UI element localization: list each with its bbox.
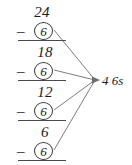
start-value: 24 <box>14 2 70 22</box>
result-row-4: 0 <box>14 161 70 165</box>
circled-subtrahend-2: 6 <box>34 62 53 80</box>
circled-subtrahend-1: 6 <box>34 22 53 40</box>
start-value-row: 24 <box>14 2 70 22</box>
minus-sign-3: – <box>17 101 25 121</box>
arrowhead-icon <box>92 77 100 84</box>
subtraction-rule-2 <box>18 80 66 81</box>
minus-sign-2: – <box>17 61 25 81</box>
result-value-4: 0 <box>14 161 70 165</box>
repeated-subtraction-diagram: 24 – 6 18 – 6 12 – 6 6 – <box>0 0 132 165</box>
subtraction-row-4: – 6 <box>14 141 70 161</box>
subtraction-row-3: – 6 <box>14 101 70 121</box>
subtraction-column: 24 – 6 18 – 6 12 – 6 6 – <box>14 0 70 165</box>
result-row-1: 18 <box>14 42 70 62</box>
count-annotation: 4 6s <box>102 72 123 90</box>
minus-sign-1: – <box>17 21 25 41</box>
subtraction-row-2: – 6 <box>14 61 70 81</box>
subtraction-rule-1 <box>18 40 66 41</box>
result-value-1: 18 <box>14 42 70 62</box>
result-row-2: 12 <box>14 82 70 102</box>
minus-sign-4: – <box>17 141 25 161</box>
circled-subtrahend-4: 6 <box>34 142 53 160</box>
subtraction-rule-3 <box>18 120 66 121</box>
result-value-2: 12 <box>14 82 70 102</box>
subtraction-row-1: – 6 <box>14 21 70 41</box>
circled-subtrahend-3: 6 <box>34 102 53 120</box>
result-value-3: 6 <box>14 122 70 142</box>
result-row-3: 6 <box>14 122 70 142</box>
